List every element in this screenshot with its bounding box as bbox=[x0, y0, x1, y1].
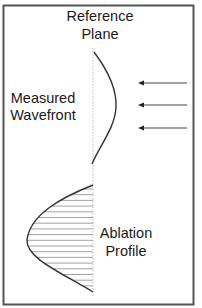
measured-wavefront-label-line1: Measured bbox=[11, 90, 75, 106]
incoming-arrows bbox=[138, 81, 187, 131]
frame-border bbox=[4, 6, 194, 305]
reference-plane-label-line2: Plane bbox=[81, 26, 118, 42]
ablation-profile-label-line2: Profile bbox=[105, 243, 146, 259]
arrow-icon bbox=[138, 81, 187, 86]
arrow-icon bbox=[138, 103, 187, 108]
arrow-icon bbox=[138, 126, 187, 131]
wavefront-ablation-diagram: Reference Plane Measured Wavefront Ablat… bbox=[0, 0, 202, 308]
measured-wavefront-curve bbox=[92, 52, 116, 164]
ablation-profile-curve bbox=[27, 185, 93, 292]
measured-wavefront-label-line2: Wavefront bbox=[10, 107, 76, 123]
reference-plane-label-line1: Reference bbox=[67, 8, 134, 24]
ablation-profile-label-line1: Ablation bbox=[100, 225, 152, 241]
